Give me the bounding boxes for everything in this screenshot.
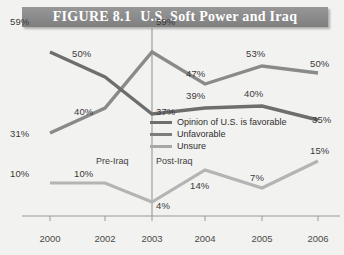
value-label-unfavorable-2002: 40% (74, 106, 93, 117)
annotation-pre-iraq: Pre-Iraq (96, 156, 129, 166)
figure-container: FIGURE 8.1U.S. Soft Power and Iraq 59% (0, 0, 344, 255)
legend-label-favorable: Opinion of U.S. is favorable (177, 117, 287, 127)
value-label-favorable-2005: 40% (244, 88, 263, 99)
value-label-unsure-2004: 14% (190, 180, 209, 191)
legend-item-unsure: Unsure (150, 141, 287, 151)
value-label-unsure-2000: 10% (10, 168, 29, 179)
value-label-unfavorable-2000: 31% (10, 128, 29, 139)
annotation-post-iraq: Post-Iraq (156, 156, 193, 166)
legend-swatch-favorable-icon (150, 121, 172, 124)
legend-item-favorable: Opinion of U.S. is favorable (150, 117, 287, 127)
value-label-favorable-2000: 59% (10, 16, 29, 27)
value-label-unsure-2006: 15% (310, 145, 329, 156)
legend-swatch-unfavorable-icon (150, 133, 172, 136)
x-axis-label-2002: 2002 (85, 233, 125, 244)
value-label-unsure-2003: 4% (156, 200, 170, 211)
legend-item-unfavorable: Unfavorable (150, 129, 287, 139)
chart-legend: Opinion of U.S. is favorable Unfavorable… (150, 117, 287, 153)
value-label-favorable-2003: 37% (156, 106, 175, 117)
x-axis-label-2004: 2004 (185, 233, 225, 244)
value-label-unfavorable-2006: 50% (310, 58, 329, 69)
value-label-unfavorable-2005: 53% (246, 48, 265, 59)
legend-label-unfavorable: Unfavorable (177, 129, 226, 139)
x-axis-label-2000: 2000 (30, 233, 70, 244)
value-label-favorable-2002: 50% (72, 48, 91, 59)
value-label-favorable-2004: 39% (186, 90, 205, 101)
value-label-unfavorable-2004: 47% (186, 68, 205, 79)
value-label-unsure-2005: 7% (250, 172, 264, 183)
value-label-favorable-2006: 35% (312, 114, 331, 125)
legend-label-unsure: Unsure (177, 141, 206, 151)
figure-number: FIGURE 8.1 (53, 9, 131, 24)
value-label-unsure-2002: 10% (74, 168, 93, 179)
x-axis-label-2005: 2005 (242, 233, 282, 244)
x-axis-label-2006: 2006 (298, 233, 338, 244)
legend-swatch-unsure-icon (150, 145, 172, 148)
value-label-unfavorable-2003: 59% (156, 16, 175, 27)
x-axis-label-2003: 2003 (132, 233, 172, 244)
